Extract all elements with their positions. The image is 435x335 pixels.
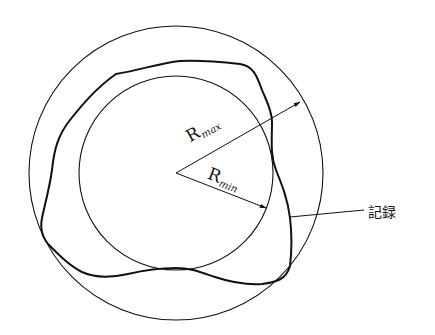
record-label: 記録 [368, 201, 396, 221]
record-leader-line [290, 210, 364, 217]
